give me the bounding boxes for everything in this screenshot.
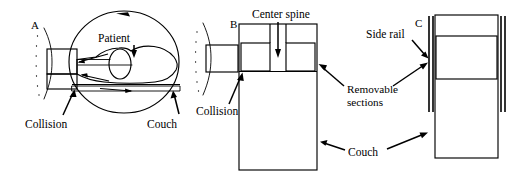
couch-leader-to-b <box>324 143 345 150</box>
panel-c-letter: C <box>415 17 422 29</box>
gantry-body-arc <box>44 28 52 99</box>
panel-a-letter: A <box>31 19 39 31</box>
panel-b-letter: B <box>230 18 237 30</box>
couch-label-shared: Couch <box>348 146 378 158</box>
patient-head <box>109 49 131 79</box>
gantry-body-dots-b <box>195 31 199 91</box>
center-spine-label: Center spine <box>252 8 310 21</box>
removable-arrowhead-c <box>420 63 429 70</box>
couch-label-a: Couch <box>147 118 177 130</box>
removable-sections-label-line1: Removable <box>347 83 398 95</box>
side-rail-leader <box>412 40 425 55</box>
patient-label: Patient <box>98 32 131 44</box>
figure-container: A <box>0 0 525 177</box>
collision-label-b: Collision <box>196 105 238 117</box>
removable-leader-to-c <box>393 65 424 86</box>
removable-sections-label-line2: sections <box>347 96 383 108</box>
center-spine-arrowhead <box>275 49 281 58</box>
patient-arrowhead <box>131 50 137 58</box>
side-rail-label: Side rail <box>366 28 405 40</box>
couch-arrowhead-c <box>420 133 429 139</box>
gantry-body-dots <box>36 35 40 95</box>
couch-arrowhead-a <box>171 91 178 99</box>
couch-leader-to-c <box>387 134 424 149</box>
removable-leader-to-b <box>322 67 344 86</box>
diagram-svg: A <box>0 0 525 177</box>
panel-a: A <box>25 11 180 130</box>
collision-arrowhead-b <box>237 73 244 82</box>
couch-arrowhead-b <box>320 140 328 146</box>
gantry-body-arc-b <box>203 23 211 95</box>
collision-label-a: Collision <box>25 118 67 130</box>
removable-section-b-left <box>241 43 270 71</box>
removable-section-c <box>436 36 497 79</box>
removable-section-b-right <box>286 43 315 71</box>
gantry-rotation-arrow <box>116 12 130 16</box>
